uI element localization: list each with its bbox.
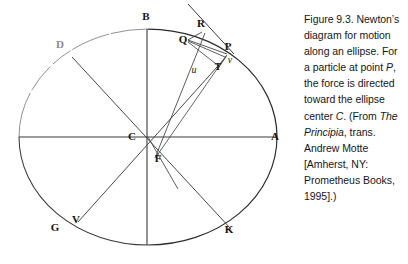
- label-u: u: [192, 64, 197, 75]
- caption-line-13: Prometheus: [304, 174, 360, 186]
- caption-line-1: Figure 9.3.: [304, 13, 354, 25]
- caption-line-12: [Amherst, NY:: [304, 158, 368, 170]
- line-C-F-extended: [148, 137, 178, 189]
- label-F: F: [155, 152, 162, 164]
- caption-principia: Principia: [304, 126, 344, 138]
- label-A: A: [271, 130, 279, 142]
- caption-line-9-rest: . (From: [343, 110, 379, 122]
- newton-ellipse-diagram: B R Q P D T v u C A F V G K: [0, 0, 290, 264]
- caption-line-5: particle at point: [313, 61, 383, 73]
- point-labels: B R Q P D T v u C A F V G K: [51, 10, 279, 235]
- label-D: D: [56, 38, 64, 50]
- figure-page: B R Q P D T v u C A F V G K Figure 9.3. …: [0, 0, 408, 264]
- caption-point-P: P: [386, 61, 393, 73]
- label-B: B: [142, 10, 150, 22]
- line-F-Q: [155, 33, 205, 158]
- ellipse-arc-top-right: [148, 29, 277, 137]
- label-Q: Q: [179, 33, 188, 45]
- diagram-svg: B R Q P D T v u C A F V G K: [0, 0, 290, 264]
- ellipse-arc-top-left: [19, 29, 148, 137]
- label-G: G: [51, 221, 60, 233]
- segment-Q-Pv: [188, 41, 225, 57]
- ellipse-arc-bottom-left: [19, 137, 148, 245]
- caption-the: The: [380, 110, 398, 122]
- label-T: T: [215, 62, 222, 72]
- ellipse-arc-bottom-right: [148, 137, 277, 245]
- label-C: C: [128, 130, 136, 142]
- label-v: v: [228, 54, 233, 65]
- label-P: P: [225, 40, 232, 52]
- caption-line-11: Andrew Motte: [304, 142, 368, 154]
- label-V: V: [72, 213, 80, 225]
- label-R: R: [197, 17, 206, 29]
- figure-caption: Figure 9.3. Newton’s diagram for motion …: [304, 11, 404, 204]
- caption-line-10-rest: , trans.: [344, 126, 376, 138]
- diameter-P-V: [78, 57, 226, 222]
- label-K: K: [225, 223, 234, 235]
- segment-Q-R: [188, 32, 202, 40]
